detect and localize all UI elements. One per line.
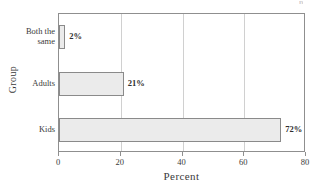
bar-value-label: 72% <box>285 125 302 134</box>
bar <box>59 118 281 142</box>
category-label: Kids <box>0 124 55 134</box>
x-axis-title: Percent <box>58 170 305 182</box>
x-tick-label: 0 <box>43 157 73 167</box>
x-tick-label: 20 <box>105 157 135 167</box>
x-tick-label: 80 <box>290 157 317 167</box>
x-tick-mark <box>58 152 59 156</box>
bar-value-label: 21% <box>128 79 145 88</box>
bar <box>59 72 124 96</box>
x-tick-mark <box>305 152 306 156</box>
x-tick-mark <box>182 152 183 156</box>
plot-area <box>58 13 305 152</box>
bar <box>59 25 65 49</box>
y-axis-title: Group <box>7 50 18 110</box>
x-tick-label: 40 <box>167 157 197 167</box>
bar-value-label: 2% <box>69 32 82 41</box>
x-tick-mark <box>120 152 121 156</box>
bar-chart: p 2%Both the same21%Adults72%Kids0204060… <box>0 0 317 190</box>
x-tick-mark <box>243 152 244 156</box>
x-tick-label: 60 <box>228 157 258 167</box>
cropped-title-text: p <box>299 0 303 4</box>
category-label: Both the same <box>0 26 55 46</box>
